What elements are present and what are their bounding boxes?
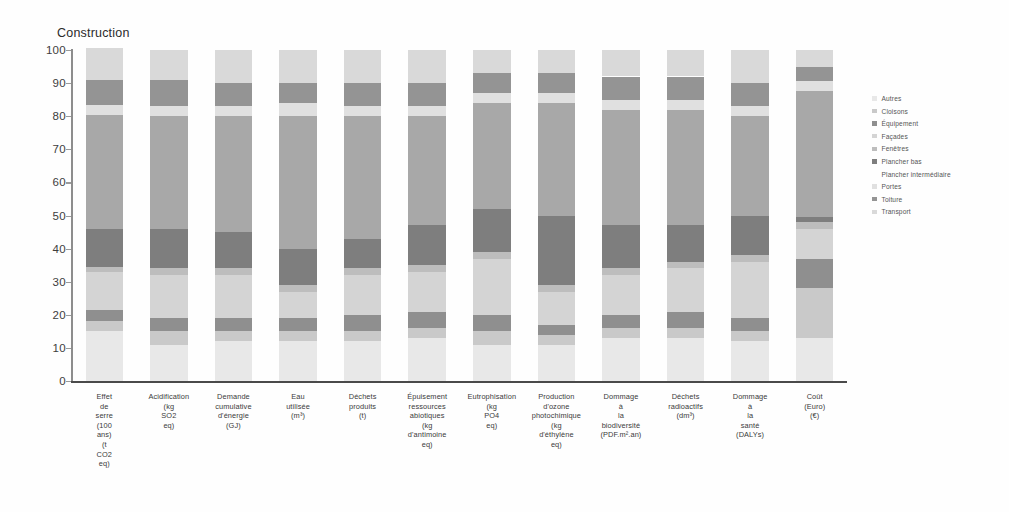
bar-segment[interactable] <box>150 50 187 80</box>
bar-segment[interactable] <box>150 331 187 344</box>
bar-segment[interactable] <box>408 225 445 265</box>
bar-segment[interactable] <box>344 275 381 315</box>
bar-segment[interactable] <box>344 315 381 332</box>
legend-item[interactable]: Transport <box>872 206 1004 219</box>
bar-segment[interactable] <box>473 252 510 259</box>
bar-segment[interactable] <box>86 267 123 272</box>
legend-item[interactable]: Toiture <box>872 194 1004 207</box>
bar-group[interactable] <box>408 50 445 381</box>
bar-segment[interactable] <box>215 268 252 275</box>
bar-segment[interactable] <box>667 268 704 311</box>
bar-segment[interactable] <box>667 110 704 226</box>
bar-segment[interactable] <box>731 106 768 116</box>
bar-segment[interactable] <box>473 93 510 103</box>
bar-segment[interactable] <box>86 310 123 322</box>
bar-segment[interactable] <box>86 115 123 229</box>
bar-segment[interactable] <box>538 335 575 345</box>
bar-segment[interactable] <box>408 265 445 272</box>
bar-segment[interactable] <box>796 81 833 91</box>
bar-group[interactable] <box>602 50 639 381</box>
stacked-bar[interactable] <box>667 50 704 381</box>
bar-segment[interactable] <box>731 83 768 106</box>
bar-segment[interactable] <box>344 83 381 106</box>
bar-segment[interactable] <box>602 110 639 226</box>
bar-segment[interactable] <box>150 345 187 381</box>
bar-segment[interactable] <box>215 83 252 106</box>
bar-group[interactable] <box>279 50 316 381</box>
bar-segment[interactable] <box>150 318 187 331</box>
stacked-bar[interactable] <box>408 50 445 381</box>
bar-segment[interactable] <box>731 50 768 83</box>
bar-segment[interactable] <box>602 100 639 110</box>
stacked-bar[interactable] <box>473 50 510 381</box>
stacked-bar[interactable] <box>150 50 187 381</box>
bar-segment[interactable] <box>731 341 768 381</box>
bar-segment[interactable] <box>344 239 381 269</box>
legend-item[interactable]: Plancher bas <box>872 156 1004 169</box>
bar-group[interactable] <box>344 50 381 381</box>
bar-segment[interactable] <box>538 93 575 103</box>
stacked-bar[interactable] <box>731 50 768 381</box>
bar-segment[interactable] <box>473 50 510 73</box>
legend-item[interactable]: Autres <box>872 93 1004 106</box>
bar-segment[interactable] <box>731 216 768 256</box>
bar-segment[interactable] <box>150 275 187 318</box>
bar-segment[interactable] <box>279 249 316 285</box>
bar-segment[interactable] <box>408 50 445 83</box>
bar-segment[interactable] <box>408 116 445 225</box>
stacked-bar[interactable] <box>279 50 316 381</box>
bar-segment[interactable] <box>602 77 639 100</box>
bar-segment[interactable] <box>408 312 445 329</box>
stacked-bar[interactable] <box>796 50 833 381</box>
bar-segment[interactable] <box>602 268 639 275</box>
bar-segment[interactable] <box>150 116 187 229</box>
bar-segment[interactable] <box>86 105 123 115</box>
bar-group[interactable] <box>86 50 123 381</box>
legend-item[interactable]: Plancher intermédiaire <box>872 169 1004 182</box>
bar-segment[interactable] <box>215 106 252 116</box>
bar-segment[interactable] <box>150 268 187 275</box>
bar-segment[interactable] <box>86 229 123 267</box>
bar-segment[interactable] <box>279 285 316 292</box>
legend-item[interactable]: Portes <box>872 181 1004 194</box>
bar-segment[interactable] <box>150 80 187 106</box>
bar-group[interactable] <box>667 50 704 381</box>
bar-segment[interactable] <box>408 328 445 338</box>
bar-segment[interactable] <box>344 268 381 275</box>
bar-segment[interactable] <box>279 83 316 103</box>
bar-segment[interactable] <box>215 116 252 232</box>
bar-segment[interactable] <box>473 331 510 344</box>
bar-segment[interactable] <box>538 292 575 325</box>
bar-segment[interactable] <box>279 341 316 381</box>
bar-segment[interactable] <box>796 50 833 67</box>
stacked-bar[interactable] <box>215 50 252 381</box>
bar-segment[interactable] <box>473 103 510 209</box>
bar-segment[interactable] <box>667 328 704 338</box>
bar-segment[interactable] <box>215 275 252 318</box>
bar-segment[interactable] <box>215 232 252 268</box>
bar-segment[interactable] <box>279 103 316 116</box>
bar-segment[interactable] <box>796 217 833 222</box>
bar-segment[interactable] <box>473 345 510 381</box>
bar-segment[interactable] <box>667 262 704 269</box>
bar-segment[interactable] <box>667 312 704 329</box>
bar-segment[interactable] <box>408 106 445 116</box>
bar-segment[interactable] <box>344 331 381 341</box>
bar-segment[interactable] <box>344 116 381 238</box>
bar-segment[interactable] <box>279 50 316 83</box>
bar-segment[interactable] <box>602 315 639 328</box>
bar-segment[interactable] <box>344 50 381 83</box>
bar-segment[interactable] <box>796 222 833 229</box>
bar-segment[interactable] <box>602 275 639 315</box>
bar-segment[interactable] <box>279 331 316 341</box>
bar-segment[interactable] <box>538 345 575 381</box>
bar-segment[interactable] <box>408 338 445 381</box>
bar-segment[interactable] <box>796 259 833 289</box>
stacked-bar[interactable] <box>86 50 123 381</box>
stacked-bar[interactable] <box>538 50 575 381</box>
legend-item[interactable]: Façades <box>872 131 1004 144</box>
bar-segment[interactable] <box>408 83 445 106</box>
bar-segment[interactable] <box>731 262 768 318</box>
bar-segment[interactable] <box>667 100 704 110</box>
bar-segment[interactable] <box>86 331 123 381</box>
